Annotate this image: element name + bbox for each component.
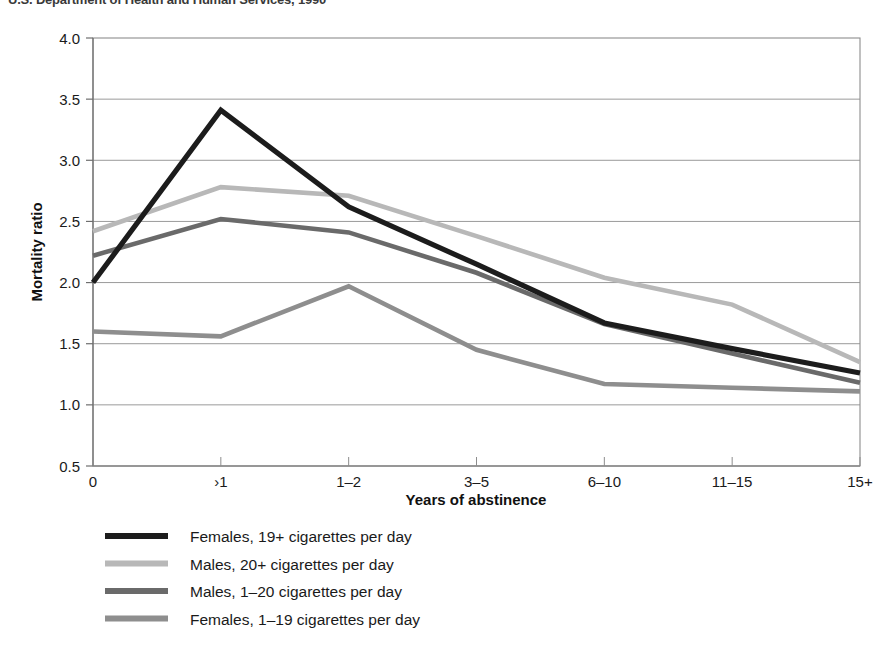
legend-label: Males, 1–20 cigarettes per day	[190, 583, 402, 600]
legend-label: Females, 19+ cigarettes per day	[190, 528, 412, 545]
y-tick-label: 0.5	[59, 458, 80, 475]
x-tick-label: 15+	[847, 473, 873, 490]
y-tick-label: 3.5	[59, 91, 80, 108]
x-tick-label: 0	[89, 473, 97, 490]
legend-label: Males, 20+ cigarettes per day	[190, 556, 394, 573]
x-tick-label: 11–15	[712, 473, 753, 490]
y-axis-tick-labels: 0.51.01.52.02.53.03.54.0	[59, 30, 93, 475]
x-tick-label: ›1	[214, 473, 227, 490]
x-tick-label: 1–2	[336, 473, 361, 490]
y-tick-label: 1.0	[59, 396, 80, 413]
y-tick-label: 4.0	[59, 30, 80, 47]
x-tick-label: 6–10	[588, 473, 621, 490]
y-tick-label: 3.0	[59, 152, 80, 169]
chart-legend: Females, 19+ cigarettes per dayMales, 20…	[105, 528, 420, 628]
chart-svg: 0.51.01.52.02.53.03.54.0 0›11–23–56–1011…	[0, 0, 889, 661]
y-tick-label: 2.0	[59, 274, 80, 291]
y-axis-title: Mortality ratio	[28, 202, 45, 301]
y-tick-label: 2.5	[59, 213, 80, 230]
plot-area-background	[93, 38, 860, 466]
x-tick-label: 3–5	[464, 473, 489, 490]
y-tick-label: 1.5	[59, 335, 80, 352]
x-axis-title: Years of abstinence	[406, 491, 547, 508]
mortality-ratio-line-chart: 0.51.01.52.02.53.03.54.0 0›11–23–56–1011…	[0, 0, 889, 661]
legend-label: Females, 1–19 cigarettes per day	[190, 611, 420, 628]
